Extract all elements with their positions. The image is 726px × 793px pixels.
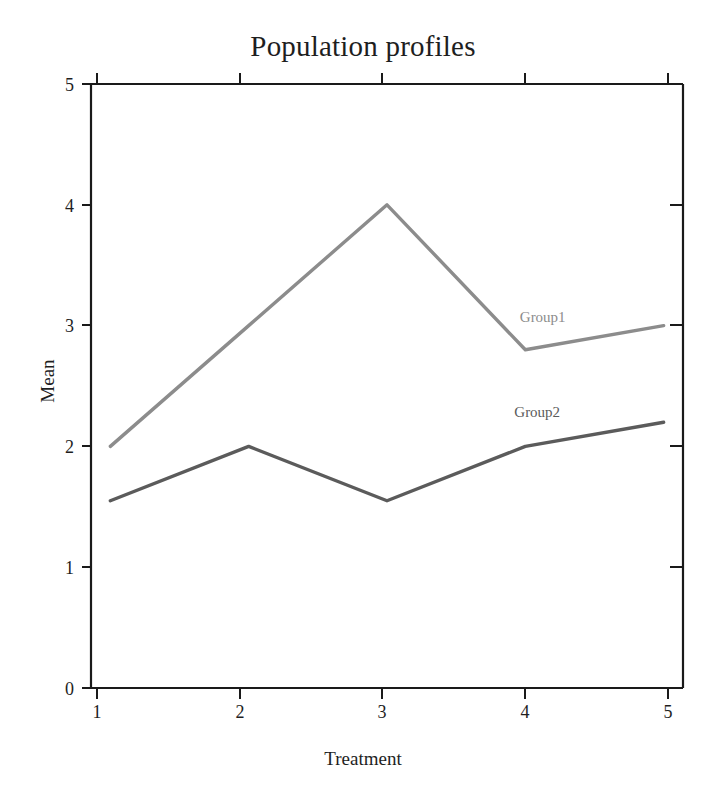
y-axis-ticks: [82, 84, 91, 688]
y-axis-label: Mean: [37, 321, 59, 441]
y-tick-label-0: 0: [48, 680, 74, 698]
y-axis-ticks-right: [670, 84, 683, 688]
x-axis-ticks-top: [97, 73, 668, 84]
x-tick-label-2: 2: [225, 703, 255, 721]
x-tick-label-5: 5: [653, 703, 683, 721]
y-tick-label-5: 5: [48, 76, 74, 94]
series-label-group1: Group1: [520, 310, 566, 325]
y-tick-label-1: 1: [48, 559, 74, 577]
plot-area: [0, 0, 726, 793]
y-tick-label-4: 4: [48, 197, 74, 215]
series-label-group2: Group2: [514, 405, 560, 420]
x-axis-label: Treatment: [0, 748, 726, 770]
x-tick-label-1: 1: [82, 703, 112, 721]
chart-figure: Population profiles: [0, 0, 726, 793]
x-axis-ticks: [97, 688, 668, 699]
x-tick-label-4: 4: [510, 703, 540, 721]
series-line-group1: [110, 205, 663, 447]
series-line-group2: [110, 422, 663, 501]
x-tick-label-3: 3: [367, 703, 397, 721]
